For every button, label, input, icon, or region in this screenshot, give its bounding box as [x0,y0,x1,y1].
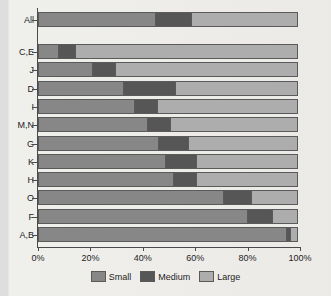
bar-segment-medium [158,136,189,151]
bar-segment-small [38,81,124,96]
legend-item-medium: Medium [140,271,190,282]
x-tick-label: 100% [280,253,320,263]
y-tick [32,20,37,21]
bar-segment-large [251,190,298,205]
bar-segment-medium [223,190,252,205]
bar-segment-small [38,227,287,242]
bar-segment-large [272,209,298,224]
bar-segment-small [38,12,156,27]
bar-segment-large [196,154,298,169]
bar-row [38,81,300,96]
x-tick [248,247,249,251]
bar-segment-large [157,99,298,114]
x-tick [195,247,196,251]
legend-label: Small [109,272,132,282]
legend-swatch-medium [140,271,155,282]
legend-swatch-large [199,271,214,282]
y-tick [32,107,37,108]
bar-segment-small [38,190,224,205]
bar-row [38,136,300,151]
bar-segment-large [290,227,298,242]
x-tick [38,247,39,251]
bar-segment-small [38,209,248,224]
x-tick-label: 40% [123,253,163,263]
bar-segment-small [38,154,166,169]
bar-segment-medium [92,62,116,77]
bar-row [38,117,300,132]
y-tick [32,198,37,199]
x-axis-line [37,247,301,248]
legend-item-small: Small [91,271,132,282]
y-tick [32,217,37,218]
bar-row [38,99,300,114]
y-tick [32,125,37,126]
legend-label: Large [217,272,240,282]
bar-segment-small [38,172,174,187]
bar-row [38,12,300,27]
bar-segment-large [75,44,298,59]
bar-segment-large [170,117,298,132]
bar-segment-small [38,117,148,132]
bar-row [38,190,300,205]
x-tick-label: 0% [18,253,58,263]
legend-item-large: Large [199,271,240,282]
bar-segment-medium [173,172,197,187]
x-tick [143,247,144,251]
category-labels: AllC,EJDIM,NGKHOFA,B [0,8,34,246]
bar-segment-medium [134,99,158,114]
bar-segment-large [115,62,298,77]
y-tick [32,235,37,236]
bar-segment-large [196,172,298,187]
bar-segment-small [38,136,159,151]
x-tick-label: 80% [228,253,268,263]
chart-legend: SmallMediumLarge [0,271,331,282]
y-tick [32,162,37,163]
y-tick [32,52,37,53]
bar-segment-medium [58,44,76,59]
bar-segment-large [188,136,298,151]
bar-row [38,209,300,224]
bar-segment-medium [165,154,196,169]
x-tick [300,247,301,251]
stacked-bar-chart: AllC,EJDIM,NGKHOFA,B 0%20%40%60%80%100% … [0,0,331,296]
y-tick [32,144,37,145]
bar-row [38,172,300,187]
bar-segment-small [38,44,59,59]
bar-row [38,154,300,169]
bar-segment-medium [155,12,192,27]
bar-segment-medium [147,117,171,132]
bar-segment-large [191,12,298,27]
bar-row [38,62,300,77]
bar-segment-small [38,62,93,77]
x-tick-label: 60% [175,253,215,263]
bar-row [38,227,300,242]
plot-area [38,8,300,246]
bar-segment-medium [247,209,273,224]
bar-row [38,44,300,59]
legend-label: Medium [158,272,190,282]
bar-segment-small [38,99,135,114]
x-tick [90,247,91,251]
bar-segment-medium [123,81,175,96]
y-tick [32,70,37,71]
bar-segment-large [175,81,298,96]
legend-swatch-small [91,271,106,282]
y-tick [32,180,37,181]
x-tick-label: 20% [70,253,110,263]
y-tick [32,89,37,90]
